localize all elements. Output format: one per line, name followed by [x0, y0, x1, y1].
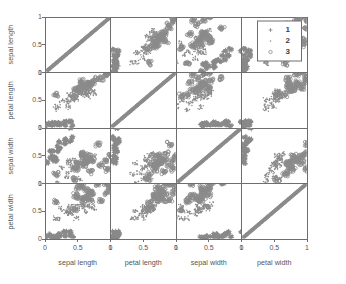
data-point-dot — [203, 49, 205, 51]
data-point-dot — [266, 98, 268, 100]
data-point-dot — [203, 98, 205, 100]
data-point-dot — [196, 100, 198, 102]
data-point-dot — [193, 57, 195, 59]
data-point-dot — [61, 167, 63, 169]
data-point-dot — [151, 161, 153, 163]
data-point-dot — [263, 97, 265, 99]
data-point-dot — [274, 172, 276, 174]
data-point-dot — [78, 204, 80, 206]
data-point-dot — [197, 60, 199, 62]
data-point-dot — [180, 41, 182, 43]
data-point-dot — [204, 94, 206, 96]
data-point-dot — [274, 154, 276, 156]
data-point-dot — [88, 205, 90, 207]
data-point-dot — [197, 95, 199, 97]
data-point-dot — [184, 109, 186, 111]
data-point-dot — [78, 100, 80, 102]
data-point-dot — [193, 60, 195, 62]
data-point-dot — [80, 95, 82, 97]
data-point-dot — [137, 174, 139, 176]
data-point-dot — [143, 168, 145, 170]
data-point-dot — [130, 172, 132, 174]
data-point-dot — [66, 174, 68, 176]
data-point-dot — [205, 52, 207, 54]
data-point-dot — [209, 210, 211, 212]
data-point-dot — [203, 208, 205, 210]
data-point-dot — [151, 205, 153, 207]
data-point-dot — [178, 107, 180, 109]
data-point-dot — [147, 168, 149, 170]
x-tick-label: 0.5 — [199, 244, 219, 251]
data-point-dot — [200, 204, 202, 206]
data-point-dot — [146, 51, 148, 53]
data-point-dot — [200, 50, 202, 52]
data-point-dot — [150, 38, 152, 40]
data-point-dot — [141, 170, 143, 172]
data-point-dot — [56, 217, 58, 219]
data-point-dot — [59, 102, 61, 104]
y-tick-label: 1 — [20, 180, 42, 187]
x-axis-label-3: petal width — [242, 258, 308, 267]
data-point-dot — [202, 208, 204, 210]
data-point-dot — [195, 56, 197, 58]
data-point-dot — [189, 53, 191, 55]
y-axis-label-2: sepal width — [6, 128, 16, 184]
data-point-dot — [86, 95, 88, 97]
data-point-dot — [145, 45, 147, 47]
data-point-dot — [73, 214, 75, 216]
data-point-dot — [59, 107, 61, 109]
data-point-dot — [207, 94, 209, 96]
y-tick-label: 0 — [20, 235, 42, 242]
data-point-dot — [208, 30, 210, 32]
data-point-dot — [138, 53, 140, 55]
data-point-dot — [265, 175, 267, 177]
data-point-dot — [264, 110, 266, 112]
data-point-dot — [94, 153, 96, 155]
data-point-dot — [188, 104, 190, 106]
data-point-dot — [62, 210, 64, 212]
data-point-dot — [199, 109, 201, 111]
data-point-dot — [58, 108, 60, 110]
legend-label-3: 3 — [286, 47, 298, 56]
data-point-dot — [74, 158, 76, 160]
data-point-dot — [78, 176, 80, 178]
data-point-dot — [283, 155, 285, 157]
splom-panel — [43, 126, 112, 184]
data-point-dot — [277, 158, 279, 160]
data-point-dot — [196, 52, 198, 54]
data-point-dot — [135, 50, 137, 52]
data-point-dot — [63, 100, 65, 102]
data-point-dot — [143, 219, 145, 221]
data-point-dot — [182, 219, 184, 221]
data-point-dot — [209, 201, 211, 203]
data-point-dot — [274, 164, 276, 166]
data-point-dot — [282, 162, 284, 164]
data-point-dot — [68, 205, 70, 207]
data-point-dot — [143, 56, 145, 58]
data-point-dot — [144, 60, 146, 62]
data-point-dot — [270, 103, 272, 105]
data-point-dot — [54, 104, 56, 106]
data-point-dot — [151, 32, 153, 34]
data-point-dot — [269, 171, 271, 173]
data-point-dot — [142, 214, 144, 216]
data-point-dot — [90, 94, 92, 96]
data-point-dot — [129, 64, 131, 66]
data-point-dot — [152, 178, 154, 180]
data-point-dot — [277, 156, 279, 158]
data-point-dot — [135, 162, 137, 164]
data-point-dot — [68, 214, 70, 216]
data-point-dot — [263, 62, 265, 64]
data-point-dot — [184, 216, 186, 218]
data-point-dot — [58, 208, 60, 210]
data-point-dot — [66, 93, 68, 95]
y-tick-label: 0.5 — [20, 96, 42, 103]
data-point-dot — [135, 209, 137, 211]
data-point-dot — [151, 158, 153, 160]
data-point-dot — [181, 100, 183, 102]
data-point-dot — [146, 54, 148, 56]
data-point-dot — [57, 106, 59, 108]
data-point-dot — [146, 215, 148, 217]
data-point-dot — [282, 159, 284, 161]
data-point-dot — [55, 105, 57, 107]
